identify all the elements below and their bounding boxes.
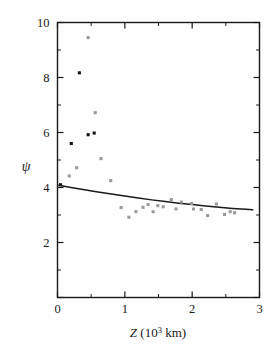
data-point-marker	[229, 210, 232, 213]
plot-frame	[58, 23, 260, 298]
y-axis-ticks	[58, 23, 260, 298]
x-tick-label: 1	[122, 302, 128, 316]
data-point-marker	[190, 202, 193, 205]
y-tick-label: 8	[43, 71, 49, 85]
y-tick-label: 2	[43, 236, 49, 250]
data-point-marker	[147, 203, 150, 206]
data-point-marker	[87, 36, 90, 39]
x-tick-label: 2	[189, 302, 195, 316]
x-axis-tick-labels: 0123	[54, 302, 262, 316]
data-point-marker	[174, 207, 177, 210]
data-point-marker	[206, 214, 209, 217]
y-tick-label: 10	[37, 16, 50, 30]
data-point-marker	[109, 179, 112, 182]
data-point-marker	[68, 174, 71, 177]
data-point-marker	[99, 157, 102, 160]
data-point-marker	[120, 206, 123, 209]
x-axis-title: Z (103 km)	[130, 325, 186, 340]
y-axis-tick-labels: 246810	[37, 16, 50, 250]
model-fit-curve	[59, 185, 253, 209]
data-point-marker	[93, 132, 96, 135]
data-point-marker	[152, 210, 155, 213]
data-point-marker	[170, 198, 173, 201]
data-point-marker	[78, 71, 81, 74]
data-point-marker	[70, 142, 73, 145]
x-axis-ticks	[58, 23, 260, 298]
data-point-marker	[87, 133, 90, 136]
data-point-marker	[134, 210, 137, 213]
y-tick-label: 4	[43, 181, 50, 195]
data-point-marker	[94, 111, 97, 114]
data-point-marker	[127, 216, 130, 219]
data-points	[59, 36, 236, 219]
data-point-marker	[215, 202, 218, 205]
data-point-marker	[141, 206, 144, 209]
data-point-marker	[200, 208, 203, 211]
y-tick-label: 6	[43, 126, 49, 140]
data-point-marker	[192, 207, 195, 210]
fit-curve-path	[59, 185, 253, 209]
figure-container: 0123 246810 Z (103 km) ψ	[0, 0, 276, 348]
data-point-marker	[162, 205, 165, 208]
data-point-marker	[180, 201, 183, 204]
data-point-marker	[156, 204, 159, 207]
y-axis-title: ψ	[22, 159, 31, 174]
x-tick-label: 3	[256, 302, 262, 316]
scatter-plot: 0123 246810 Z (103 km) ψ	[0, 0, 276, 348]
data-point-marker	[75, 166, 78, 169]
data-point-marker	[233, 211, 236, 214]
data-point-marker	[59, 183, 62, 186]
data-point-marker	[223, 213, 226, 216]
x-tick-label: 0	[54, 302, 60, 316]
